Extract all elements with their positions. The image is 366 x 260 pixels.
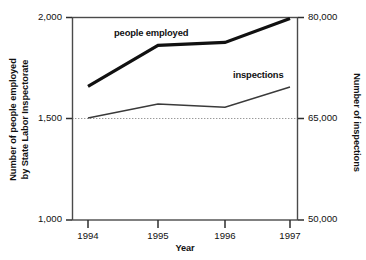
x-axis-ticks (88, 220, 290, 228)
y-axis-right-tick-65000: 65,000 (308, 112, 354, 123)
x-axis-tick-1995: 1995 (135, 230, 181, 241)
x-axis-tick-1996: 1996 (202, 230, 248, 241)
y-axis-left-tick-2000: 2,000 (22, 11, 62, 22)
y-axis-right-tick-80000: 80,000 (308, 11, 354, 22)
series-label-inspections: inspections (232, 69, 284, 80)
y-axis-left-ticks (66, 18, 72, 221)
y-axis-left-tick-1500: 1,500 (22, 112, 62, 123)
y-axis-left-tick-1000: 1,000 (22, 213, 62, 224)
y-axis-left-title-line1: Number of people employed (8, 58, 19, 181)
series-label-people-employed: people employed (113, 27, 189, 38)
series-line-inspections (88, 87, 290, 118)
y-axis-right-ticks (298, 18, 304, 221)
line-chart: Number of people employed by State Labor… (0, 0, 366, 260)
y-axis-right-tick-50000: 50,000 (308, 213, 354, 224)
x-axis-title: Year (72, 243, 298, 253)
x-axis-tick-1994: 1994 (65, 230, 111, 241)
x-axis-tick-1997: 1997 (267, 230, 313, 241)
